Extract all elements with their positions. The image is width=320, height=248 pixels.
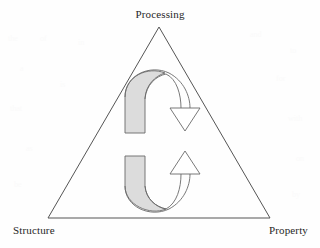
vertex-label-structure: Structure bbox=[13, 224, 55, 236]
triangle-cycle-diagram bbox=[0, 0, 320, 248]
lower-counterclockwise-arrow bbox=[125, 151, 200, 212]
upper-arrowhead bbox=[170, 108, 200, 131]
figure-canvas: the of in and to a is for that with as o… bbox=[0, 0, 320, 248]
lower-arrowhead bbox=[170, 151, 200, 174]
vertex-label-property: Property bbox=[269, 224, 308, 236]
triangle-outline bbox=[48, 27, 270, 218]
vertex-label-processing: Processing bbox=[0, 8, 320, 20]
